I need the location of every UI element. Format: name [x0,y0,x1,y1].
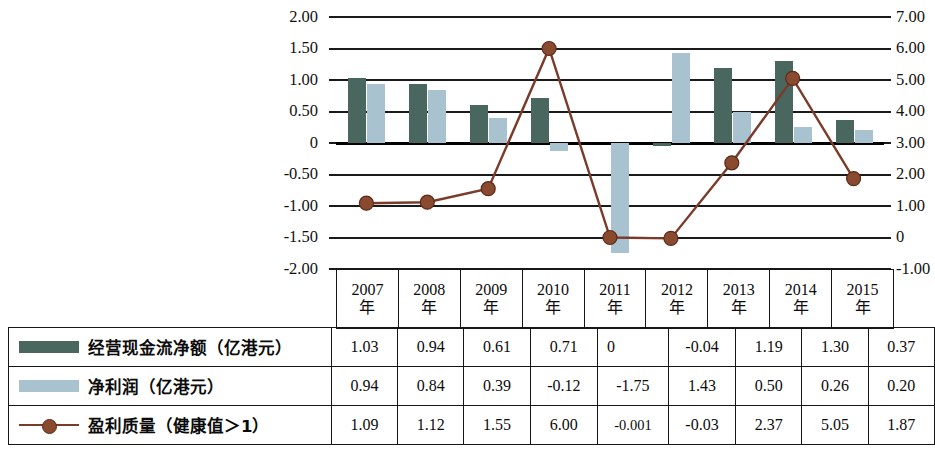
cell-quality-2009: 1.55 [464,406,530,445]
left-axis-tick-1: 1.50 [230,40,318,57]
year-unit-8: 年 [855,299,871,316]
right-axis-tick-1: 6.00 [896,40,925,57]
right-axis-tick-4: 3.00 [896,135,925,152]
axis-tick-mark [329,79,336,81]
cell-cash-2014: 1.30 [802,328,868,367]
cell-profit-2012: 1.43 [668,367,735,406]
plot-canvas [336,17,884,269]
year-num-0: 2007 [351,281,383,298]
left-axis-tick-3: 0.50 [230,103,318,120]
cell-cash-2013: 1.19 [736,328,802,367]
axis-tick-mark [329,237,336,239]
cell-quality-2008: 1.12 [398,406,464,445]
cell-quality-2011: -0.001 [598,406,669,445]
year-unit-1: 年 [421,299,437,316]
chart-plot-region: 2.00 1.50 1.00 0.50 0 -0.50 -1.00 -1.50 … [0,0,935,280]
left-axis-tick-4: 0 [230,135,318,152]
axis-tick-mark [329,174,336,176]
year-num-3: 2010 [537,281,569,298]
year-header-cell-2: 2009年 [460,270,522,329]
right-axis-tick-5: 2.00 [896,166,925,183]
axis-tick-mark [329,142,336,144]
year-header-cell-3: 2010年 [522,270,584,329]
cell-profit-2015: 0.20 [868,367,934,406]
quality-marker-2015年 [847,172,861,186]
right-axis-tick-6: 1.00 [896,198,925,215]
year-unit-3: 年 [545,299,561,316]
table-row: 净利润（亿港元） 0.94 0.84 0.39 -0.12 -1.75 1.43… [9,367,935,406]
series-data-table: 经营现金流净额（亿港元） 1.03 0.94 0.61 0.71 0 -0.04… [8,327,935,445]
cell-quality-2010: 6.00 [530,406,597,445]
year-unit-6: 年 [731,299,747,316]
cell-profit-2010: -0.12 [530,367,597,406]
axis-tick-mark [329,111,336,113]
year-unit-7: 年 [793,299,809,316]
cell-cash-2008: 0.94 [398,328,464,367]
year-unit-5: 年 [669,299,685,316]
year-unit-4: 年 [607,299,623,316]
quality-marker-2007年 [359,196,373,210]
right-axis-tick-0: 7.00 [896,9,925,26]
year-num-4: 2011 [599,281,630,298]
cell-profit-2009: 0.39 [464,367,530,406]
cell-quality-2007: 1.09 [331,406,397,445]
quality-marker-2013年 [725,156,739,170]
axis-tick-mark [329,16,336,18]
quality-marker-2012年 [664,231,678,245]
year-num-8: 2015 [847,281,879,298]
year-header-cell-7: 2014年 [770,270,832,329]
axis-tick-mark [884,237,891,239]
axis-tick-mark [329,205,336,207]
legend-cell-profit: 净利润（亿港元） [9,367,332,406]
axis-tick-mark [884,79,891,81]
year-header-cell-8: 2015年 [832,270,894,329]
table-row: 经营现金流净额（亿港元） 1.03 0.94 0.61 0.71 0 -0.04… [9,328,935,367]
cell-profit-2014: 0.26 [802,367,868,406]
cell-quality-2012: -0.03 [668,406,735,445]
quality-marker-2008年 [420,195,434,209]
year-header-cell-5: 2012年 [646,270,708,329]
year-num-1: 2008 [413,281,445,298]
line-series-swatch-icon [19,419,79,431]
cell-cash-2010: 0.71 [530,328,597,367]
year-num-6: 2013 [723,281,755,298]
left-axis-tick-6: -1.00 [230,198,318,215]
left-axis-tick-5: -0.50 [230,166,318,183]
left-axis-tick-2: 1.00 [230,72,318,89]
year-unit-2: 年 [483,299,499,316]
axis-tick-mark [884,48,891,50]
profit-bar-swatch-icon [19,380,79,392]
cell-quality-2014: 5.05 [802,406,868,445]
chart-page: 2.00 1.50 1.00 0.50 0 -0.50 -1.00 -1.50 … [0,0,935,455]
right-axis-tick-2: 5.00 [896,72,925,89]
left-axis-tick-0: 2.00 [230,9,318,26]
quality-marker-2014年 [786,71,800,85]
year-num-2: 2009 [475,281,507,298]
cell-quality-2015: 1.87 [868,406,934,445]
year-unit-0: 年 [359,299,375,316]
right-axis-tick-7: 0 [896,229,904,246]
axis-tick-mark [329,48,336,50]
quality-marker-2009年 [481,182,495,196]
cell-profit-2007: 0.94 [331,367,397,406]
axis-tick-mark [884,205,891,207]
table-row: 盈利质量（健康值＞1） 1.09 1.12 1.55 6.00 -0.001 -… [9,406,935,445]
year-header-cell-4: 2011年 [584,270,646,329]
axis-tick-mark [884,142,891,144]
legend-cell-cash: 经营现金流净额（亿港元） [9,328,332,367]
cell-profit-2013: 0.50 [736,367,802,406]
year-num-5: 2012 [661,281,693,298]
cell-cash-2011: 0 [598,328,669,367]
cell-cash-2015: 0.37 [868,328,934,367]
cell-quality-2013: 2.37 [736,406,802,445]
quality-marker-2011年 [603,231,617,245]
legend-label-quality: 盈利质量（健康值＞1） [88,413,269,437]
legend-label-cash: 经营现金流净额（亿港元） [88,335,292,359]
cell-cash-2007: 1.03 [331,328,397,367]
axis-tick-mark [884,174,891,176]
quality-marker-2010年 [542,42,556,56]
year-header-table: 2007年 2008年 2009年 2010年 2011年 2012年 2013… [336,269,894,329]
legend-cell-quality: 盈利质量（健康值＞1） [9,406,332,445]
cell-profit-2008: 0.84 [398,367,464,406]
cash-bar-swatch-icon [19,341,79,353]
